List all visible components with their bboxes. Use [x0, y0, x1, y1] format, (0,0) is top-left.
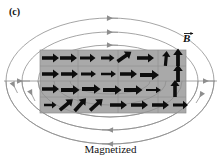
figure-canvas — [0, 0, 221, 162]
figure-caption: Magnetized — [0, 144, 221, 155]
panel-label: (c) — [9, 7, 20, 17]
magnetic-field-label: B — [183, 33, 190, 44]
magnetized-bar-magnet-figure: (c) B Magnetized — [0, 0, 221, 162]
